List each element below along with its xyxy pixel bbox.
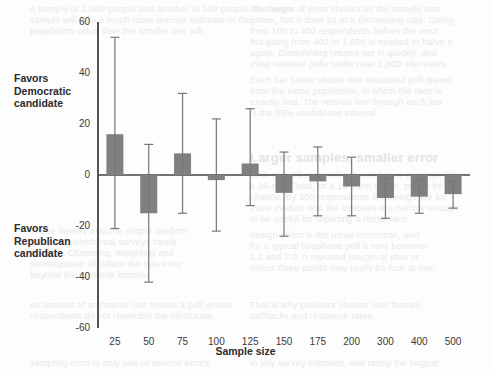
chart-canvas — [0, 0, 491, 374]
error-bar — [110, 37, 119, 228]
figure-container: a sample of 1,000 people and another of … — [0, 0, 491, 374]
error-bar — [246, 109, 255, 206]
x-axis-title: Sample size — [0, 345, 491, 357]
chart-plot-area: Favors Democratic candidate Favors Repub… — [0, 0, 491, 374]
error-bar — [280, 152, 289, 236]
